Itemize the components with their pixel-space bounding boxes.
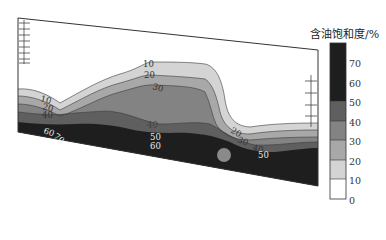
colorbar-tick-10: 10 <box>349 176 361 186</box>
colorbar <box>330 43 346 199</box>
colorbar-tick-60: 60 <box>349 79 361 89</box>
colorbar-tick-40: 40 <box>349 118 361 128</box>
colorbar-tick-0: 0 <box>349 196 355 206</box>
colorbar-tick-30: 30 <box>349 137 361 147</box>
colorbar-tick-20: 20 <box>349 157 361 167</box>
colorbar-tick-50: 50 <box>349 98 361 108</box>
colorbar-title: 含油饱和度/% <box>310 25 379 41</box>
circle-marker <box>217 148 231 162</box>
svg-text:50: 50 <box>258 150 269 160</box>
svg-text:20: 20 <box>144 70 155 80</box>
svg-text:40: 40 <box>147 120 158 130</box>
svg-text:40: 40 <box>42 110 53 120</box>
svg-text:10: 10 <box>143 59 154 69</box>
colorbar-tick-70: 70 <box>349 59 361 69</box>
svg-text:60: 60 <box>150 141 161 151</box>
